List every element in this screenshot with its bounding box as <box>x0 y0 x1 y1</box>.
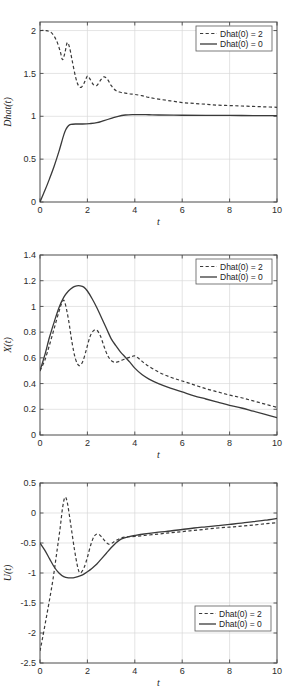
plot-panel-u: 0246810-2.5-2-1.5-1-0.500.5tU(t)Dhat(0) … <box>0 461 290 693</box>
y-tick-label: 0.4 <box>23 379 36 389</box>
x-tick-label: 2 <box>85 205 90 215</box>
chart-svg-2: 0246810-2.5-2-1.5-1-0.500.5tU(t)Dhat(0) … <box>0 461 290 693</box>
x-tick-label: 2 <box>85 666 90 676</box>
y-tick-label: 1 <box>31 302 36 312</box>
legend[interactable]: Dhat(0) = 2Dhat(0) = 0 <box>195 606 271 631</box>
x-tick-label: 8 <box>227 666 232 676</box>
y-tick-label: 0 <box>31 430 36 440</box>
x-tick-label: 10 <box>272 205 282 215</box>
y-tick-label: 0.8 <box>23 327 36 337</box>
chart-svg-0: 024681000.511.52tDhat(t)Dhat(0) = 2Dhat(… <box>0 0 290 232</box>
y-tick-label: 1 <box>31 111 36 121</box>
x-tick-label: 6 <box>180 666 185 676</box>
axis-ticks: 0246810-2.5-2-1.5-1-0.500.5 <box>20 478 282 676</box>
legend-label-solid: Dhat(0) = 0 <box>219 619 262 629</box>
x-tick-label: 4 <box>132 438 137 448</box>
y-tick-label: 0 <box>31 197 36 207</box>
y-axis-label: X(t) <box>2 337 14 354</box>
x-axis-label: t <box>157 216 160 227</box>
gridlines <box>40 483 277 663</box>
x-axis-label: t <box>157 449 160 460</box>
data-curves <box>40 286 277 418</box>
y-tick-label: -2 <box>28 628 36 638</box>
x-tick-label: 8 <box>227 205 232 215</box>
x-tick-label: 0 <box>37 205 42 215</box>
matlab-figure: 024681000.511.52tDhat(t)Dhat(0) = 2Dhat(… <box>0 0 290 695</box>
y-tick-label: -0.5 <box>20 538 36 548</box>
plot-panel-dhat: 024681000.511.52tDhat(t)Dhat(0) = 2Dhat(… <box>0 0 290 232</box>
y-tick-label: 1.5 <box>23 69 36 79</box>
y-axis-label: U(t) <box>2 564 14 581</box>
x-tick-label: 8 <box>227 438 232 448</box>
series-dhat0-0 <box>40 518 277 578</box>
x-axis-label: t <box>157 677 160 688</box>
x-tick-label: 10 <box>272 438 282 448</box>
x-tick-label: 6 <box>180 438 185 448</box>
legend-label-solid: Dhat(0) = 0 <box>220 272 263 282</box>
plot-panel-x: 024681000.20.40.60.811.21.4tX(t)Dhat(0) … <box>0 233 290 465</box>
x-tick-label: 6 <box>180 205 185 215</box>
y-tick-label: -1 <box>28 568 36 578</box>
y-tick-label: 0.5 <box>23 154 36 164</box>
chart-svg-1: 024681000.20.40.60.811.21.4tX(t)Dhat(0) … <box>0 233 290 465</box>
legend-label-solid: Dhat(0) = 0 <box>220 39 263 49</box>
y-tick-label: 2 <box>31 26 36 36</box>
y-tick-label: 0.2 <box>23 404 36 414</box>
x-tick-label: 4 <box>132 666 137 676</box>
y-tick-label: 1.4 <box>23 250 36 260</box>
x-tick-label: 0 <box>37 666 42 676</box>
y-tick-label: -1.5 <box>20 598 36 608</box>
y-tick-label: 0.5 <box>23 478 36 488</box>
x-tick-label: 4 <box>132 205 137 215</box>
x-tick-label: 0 <box>37 438 42 448</box>
legend[interactable]: Dhat(0) = 2Dhat(0) = 0 <box>196 259 272 284</box>
legend-label-dashed: Dhat(0) = 2 <box>220 29 263 39</box>
y-tick-label: 1.2 <box>23 276 36 286</box>
legend-label-dashed: Dhat(0) = 2 <box>220 262 263 272</box>
y-tick-label: -2.5 <box>20 658 36 668</box>
y-axis-label: Dhat(t) <box>2 97 14 128</box>
y-tick-label: 0 <box>31 508 36 518</box>
legend[interactable]: Dhat(0) = 2Dhat(0) = 0 <box>196 26 272 51</box>
x-tick-label: 2 <box>85 438 90 448</box>
y-tick-label: 0.6 <box>23 353 36 363</box>
legend-label-dashed: Dhat(0) = 2 <box>219 609 262 619</box>
x-tick-label: 10 <box>272 666 282 676</box>
series-dhat0-2 <box>40 300 277 407</box>
series-dhat0-0 <box>40 115 277 202</box>
